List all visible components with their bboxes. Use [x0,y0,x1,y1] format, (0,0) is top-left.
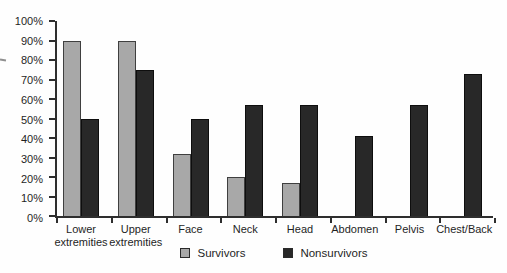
y-axis-tick-label: 30% [0,152,43,166]
plot-area [55,21,493,218]
legend-label: Nonsurvivors [300,246,367,260]
y-axis-tick-label: 90% [0,34,43,48]
bar-survivors-head [282,183,300,216]
y-axis-tick-label: 60% [0,93,43,107]
y-axis-tick-label: 20% [0,172,43,186]
legend-item-nonsurvivors: Nonsurvivors [283,246,367,260]
bar-nonsurvivors-lower-extremities [81,119,99,217]
legend: SurvivorsNonsurvivors [55,246,493,260]
bar-survivors-lower-extremities [63,41,81,217]
y-axis-tick-label: 0% [0,211,43,225]
bar-nonsurvivors-face [191,119,209,217]
bar-nonsurvivors-head [300,105,318,216]
legend-item-survivors: Survivors [180,246,245,260]
x-axis-label-chest-back: Chest/Back [422,223,506,236]
legend-label: Survivors [197,246,245,260]
bar-nonsurvivors-abdomen [355,136,373,216]
legend-swatch-survivors-icon [180,248,190,258]
y-axis-tick-label: 50% [0,113,43,127]
legend-swatch-nonsurvivors-icon [283,248,293,258]
bar-survivors-face [173,154,191,216]
bar-nonsurvivors-pelvis [410,105,428,216]
y-axis-labels: 0%10%20%30%40%50%60%70%80%90%100% [0,21,55,218]
y-axis-tick-label: 80% [0,53,43,67]
y-axis-tick-label: 10% [0,191,43,205]
y-axis-tick-label: 100% [0,14,43,28]
bar-survivors-neck [227,177,245,216]
bar-nonsurvivors-neck [245,105,263,216]
bar-chart-figure: 0%10%20%30%40%50%60%70%80%90%100% Lower … [0,0,507,273]
y-axis-tick-label: 40% [0,132,43,146]
bar-survivors-upper-extremities [118,41,136,217]
y-axis-tick-label: 70% [0,73,43,87]
bar-nonsurvivors-chest-back [464,74,482,216]
bar-nonsurvivors-upper-extremities [136,70,154,216]
